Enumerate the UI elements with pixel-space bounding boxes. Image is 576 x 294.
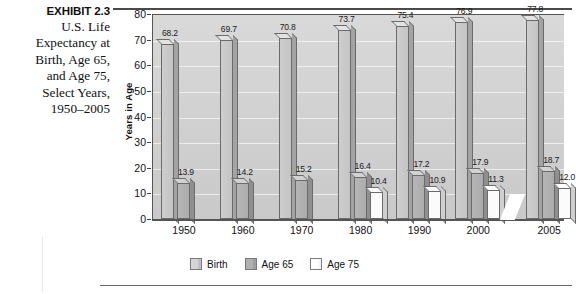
gridline (153, 92, 564, 93)
exhibit-description-line: 1950–2005 (0, 101, 110, 117)
y-axis-tick-label: 40 (120, 111, 146, 123)
bar-front-face (220, 40, 233, 219)
bar[interactable] (295, 175, 313, 219)
legend-swatch (310, 258, 322, 270)
bar-value-label: 69.7 (221, 24, 237, 34)
legend-label: Birth (207, 259, 228, 270)
bar-side-face (571, 183, 576, 224)
bar-front-face (471, 173, 484, 219)
exhibit-description-line: and Age 75, (0, 68, 110, 84)
y-axis-tick-mark (147, 91, 151, 92)
bar-front-face (455, 22, 468, 219)
y-axis-tick-mark (147, 219, 151, 220)
bar[interactable] (428, 186, 446, 219)
y-axis-tick-mark (147, 142, 151, 143)
bar-value-label: 76.9 (456, 6, 472, 16)
legend-item[interactable]: Birth (190, 258, 228, 270)
y-axis-tick-label: 70 (120, 34, 146, 46)
bar-value-label: 17.2 (413, 159, 429, 169)
exhibit-description-line: Birth, Age 65, (0, 52, 110, 68)
bar-value-label: 10.9 (429, 175, 445, 185)
bar-value-label: 14.2 (237, 167, 253, 177)
page-margin-rule (42, 236, 43, 292)
bar-value-label: 16.4 (355, 161, 371, 171)
y-axis-tick-mark (147, 65, 151, 66)
bar-value-label: 75.4 (397, 10, 413, 20)
bar-value-label: 68.2 (162, 28, 178, 38)
bar[interactable] (558, 183, 576, 219)
legend-swatch (190, 258, 202, 270)
bar[interactable] (177, 178, 195, 219)
y-axis-tick-mark (147, 14, 151, 15)
bar-front-face (295, 180, 308, 219)
legend-label: Age 75 (327, 259, 359, 270)
bar-front-face (236, 183, 249, 219)
x-axis-tick-label: 2000 (467, 224, 490, 236)
exhibit-description-line: Select Years, (0, 85, 110, 101)
gridline (153, 143, 564, 144)
bar-side-face (249, 178, 254, 224)
bar-value-label: 13.9 (178, 167, 194, 177)
bar-front-face (279, 38, 292, 219)
bar-value-label: 77.8 (527, 4, 543, 14)
y-axis-tick-mark (147, 40, 151, 41)
gridline (153, 66, 564, 67)
bottom-divider-rule (100, 285, 572, 286)
bar-value-label: 18.7 (543, 155, 559, 165)
exhibit-description-line: Expectancy at (0, 35, 110, 51)
y-axis-tick-label: 60 (120, 59, 146, 71)
bar-front-face (428, 191, 441, 219)
gridline (153, 118, 564, 119)
exhibit-number: EXHIBIT 2.3 (0, 4, 118, 18)
top-divider-rule (113, 8, 572, 10)
chart-legend: BirthAge 65Age 75 (190, 258, 359, 270)
x-axis-tick-label: 1970 (290, 224, 313, 236)
bar[interactable] (236, 178, 254, 219)
y-axis-tick-label: 80 (120, 8, 146, 20)
y-axis-tick-label: 0 (120, 213, 146, 225)
plot-area: 68.213.969.714.270.815.273.716.410.475.4… (152, 14, 564, 219)
exhibit-caption: EXHIBIT 2.3 U.S. Life Expectancy at Birt… (0, 4, 118, 117)
exhibit-description-line: U.S. Life (0, 19, 110, 35)
y-axis-tick-label: 20 (120, 162, 146, 174)
bar-value-label: 10.4 (371, 176, 387, 186)
bar-chart: Years in Age 01020304050607080 68.213.96… (120, 14, 564, 252)
x-axis-tick-label: 1960 (231, 224, 254, 236)
bar-side-face (190, 178, 195, 224)
bar-front-face (354, 177, 367, 219)
bar-front-face (396, 26, 409, 219)
bar[interactable] (370, 187, 388, 219)
y-axis-tick-mark (147, 117, 151, 118)
bar-value-label: 70.8 (280, 22, 296, 32)
legend-item[interactable]: Age 65 (245, 258, 294, 270)
legend-label: Age 65 (262, 259, 294, 270)
bar-front-face (338, 30, 351, 219)
bar-value-label: 17.9 (472, 157, 488, 167)
x-axis-tick-label: 1990 (408, 224, 431, 236)
bar-front-face (177, 183, 190, 219)
bar-front-face (542, 171, 555, 219)
x-axis-tick-label: 1950 (172, 224, 195, 236)
bar-front-face (558, 188, 571, 219)
bar-front-face (526, 20, 539, 219)
legend-swatch (245, 258, 257, 270)
legend-item[interactable]: Age 75 (310, 258, 359, 270)
bar-side-face (308, 175, 313, 224)
y-axis-tick-label: 10 (120, 187, 146, 199)
bar-value-label: 73.7 (339, 14, 355, 24)
y-axis-tick-label: 50 (120, 85, 146, 97)
y-axis-tick-label: 30 (120, 136, 146, 148)
y-axis-ticks: 01020304050607080 (120, 14, 146, 219)
bar-front-face (370, 192, 383, 219)
gridline (153, 41, 564, 42)
bar-front-face (412, 175, 425, 219)
bar-value-label: 12.0 (559, 172, 575, 182)
x-axis-tick-label: 2005 (537, 224, 560, 236)
bar-front-face (487, 190, 500, 219)
bar-value-label: 15.2 (296, 164, 312, 174)
x-axis-tick-label: 1980 (349, 224, 372, 236)
y-axis-tick-mark (147, 168, 151, 169)
bar-front-face (161, 44, 174, 219)
y-axis-tick-mark (147, 193, 151, 194)
